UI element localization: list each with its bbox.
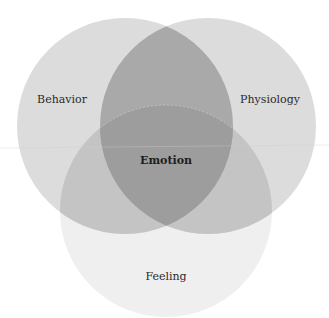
feeling-label: Feeling	[145, 270, 186, 283]
behavior-label: Behavior	[37, 93, 88, 106]
venn-diagram: Behavior Physiology Feeling Emotion	[0, 0, 329, 318]
physiology-label: Physiology	[240, 93, 301, 106]
emotion-label: Emotion	[140, 154, 192, 167]
